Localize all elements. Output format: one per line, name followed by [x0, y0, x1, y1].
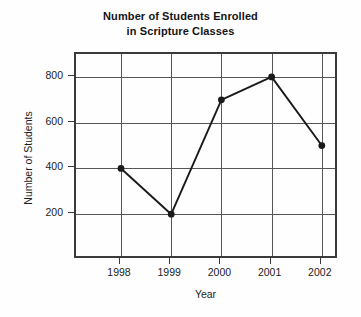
x-axis-tick-mark	[169, 258, 170, 264]
data-point-marker	[168, 211, 175, 218]
data-point-marker	[268, 73, 275, 80]
x-axis-title: Year	[74, 288, 337, 300]
y-axis-tick-mark	[68, 75, 74, 76]
x-axis-tick-label: 1999	[146, 267, 192, 278]
chart-title: Number of Students Enrolled in Scripture…	[0, 9, 361, 39]
x-axis-tick-label: 2001	[247, 267, 293, 278]
y-axis-tick-mark	[68, 166, 74, 167]
x-axis-tick-label: 1998	[96, 267, 142, 278]
y-axis-title: Number of Students	[22, 88, 34, 228]
x-axis-tick-label: 2000	[196, 267, 242, 278]
data-point-marker	[218, 96, 225, 103]
x-axis-tick-mark	[270, 258, 271, 264]
chart-page: Number of Students Enrolled in Scripture…	[0, 0, 361, 317]
x-axis-tick-label: 2002	[297, 267, 343, 278]
chart-title-line-2: in Scripture Classes	[0, 24, 361, 39]
x-axis-tick-mark	[119, 258, 120, 264]
y-axis-tick-mark	[68, 121, 74, 122]
plot-area	[74, 52, 337, 258]
chart-title-line-1: Number of Students Enrolled	[103, 10, 258, 22]
x-axis-tick-mark	[219, 258, 220, 264]
y-axis-tick-mark	[68, 212, 74, 213]
data-point-marker	[118, 165, 125, 172]
y-axis-tick-label: 800	[23, 70, 63, 80]
data-point-marker	[318, 142, 325, 149]
line-series	[76, 54, 339, 260]
x-axis-tick-mark	[320, 258, 321, 264]
